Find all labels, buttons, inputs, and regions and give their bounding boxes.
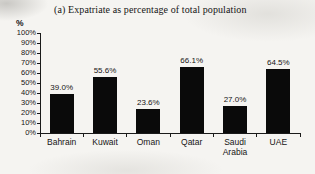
bar-value-label-qatar: 66.1% [170, 56, 214, 65]
y-tick-mark [37, 43, 40, 44]
chart-title: (a) Expatriate as percentage of total po… [54, 4, 247, 15]
y-tick-label: 30% [0, 99, 36, 107]
y-tick-label: 40% [0, 89, 36, 97]
x-category-label-uae: UAE [256, 138, 300, 148]
bar-value-label-saudi-arabia: 27.0% [213, 95, 257, 104]
y-tick-label: 90% [0, 39, 36, 47]
bar-bahrain [50, 94, 74, 133]
x-tick-mark [126, 134, 127, 137]
bar-saudi-arabia [223, 106, 247, 133]
y-tick-mark [37, 103, 40, 104]
bar-uae [266, 69, 290, 134]
y-tick-label: 60% [0, 69, 36, 77]
y-tick-mark [37, 113, 40, 114]
x-category-label-bahrain: Bahrain [40, 138, 84, 148]
x-tick-mark [213, 134, 214, 137]
x-category-label-oman: Oman [126, 138, 170, 148]
bar-oman [136, 109, 160, 133]
x-category-label-kuwait: Kuwait [83, 138, 127, 148]
y-tick-label: 0% [0, 129, 36, 137]
y-tick-mark [37, 33, 40, 34]
bar-value-label-kuwait: 55.6% [83, 66, 127, 75]
bar-kuwait [93, 77, 117, 133]
y-tick-label: 50% [0, 79, 36, 87]
x-category-label-qatar: Qatar [170, 138, 214, 148]
x-tick-mark [40, 134, 41, 137]
x-tick-mark [83, 134, 84, 137]
x-tick-mark [170, 134, 171, 137]
y-tick-label: 20% [0, 109, 36, 117]
bar-value-label-bahrain: 39.0% [40, 83, 84, 92]
y-axis-unit-label: % [16, 18, 24, 28]
y-tick-label: 100% [0, 29, 36, 37]
bar-value-label-uae: 64.5% [256, 58, 300, 67]
x-tick-mark [256, 134, 257, 137]
y-tick-mark [37, 73, 40, 74]
x-category-label-saudi-arabia: Saudi Arabia [213, 138, 257, 157]
y-tick-mark [37, 63, 40, 64]
y-tick-label: 70% [0, 59, 36, 67]
x-tick-mark [300, 134, 301, 137]
y-tick-mark [37, 123, 40, 124]
bar-value-label-oman: 23.6% [126, 98, 170, 107]
y-tick-label: 10% [0, 119, 36, 127]
y-tick-mark [37, 93, 40, 94]
bar-chart-figure: (a) Expatriate as percentage of total po… [0, 0, 315, 174]
bar-qatar [180, 67, 204, 133]
y-tick-label: 80% [0, 49, 36, 57]
y-tick-mark [37, 53, 40, 54]
